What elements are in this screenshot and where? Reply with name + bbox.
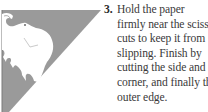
step-text-line: slipping. Finish by — [117, 47, 208, 62]
step-text-line: corner, and finally the — [117, 76, 208, 91]
step-number: 3. — [104, 3, 113, 18]
step-text-line: Hold the paper — [117, 3, 208, 18]
step-text-line: cuts to keep it from — [117, 32, 208, 47]
step-text: Hold the paper firmly near the scissor c… — [104, 3, 208, 105]
step-text-line: cutting the side and — [117, 61, 208, 76]
step-text-line: outer edge. — [117, 91, 208, 106]
elephant-cutout-icon — [0, 0, 104, 112]
instruction-step: 3. Hold the paper firmly near the scisso… — [104, 3, 208, 105]
folded-paper-illustration — [0, 0, 104, 112]
step-text-line: firmly near the scissor — [117, 18, 208, 33]
